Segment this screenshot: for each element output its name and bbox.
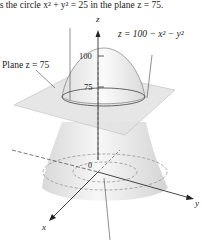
origin-label: 0 xyxy=(88,161,92,170)
z-axis-arrow-icon xyxy=(96,30,101,37)
plane-leader-line xyxy=(36,70,55,88)
z-axis-label: z xyxy=(95,14,100,24)
x-axis-label: x xyxy=(41,222,46,232)
surface-equation-label: z = 100 − x² − y² xyxy=(117,29,184,39)
y-axis-label: y xyxy=(194,198,199,208)
tick-100-label: 100 xyxy=(79,51,92,61)
top-caption: is the circle x² + y² = 25 in the plane … xyxy=(0,0,163,10)
tick-75-label: 75 xyxy=(84,82,93,92)
y-axis-arrow-icon xyxy=(186,195,194,201)
plane-label: Plane z = 75 xyxy=(2,60,50,70)
paraboloid-diagram: z 100 75 x y 0 is the circle x² + y² = 2… xyxy=(0,0,205,240)
